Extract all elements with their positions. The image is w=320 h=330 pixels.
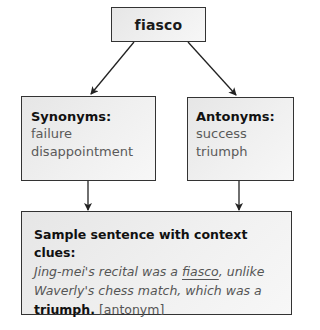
vocab-word-box: fiasco [111,7,206,42]
sentence-part: , unlike [219,264,265,279]
arrow-to-antonyms [188,42,236,95]
antonyms-box: Antonyms: success triumph [187,97,294,181]
sample-sentence-line-2: Waverly's chess match, which was a [34,281,291,300]
sample-sentence-box: Sample sentence with context clues: Jing… [21,211,292,315]
context-clue-word: triumph. [34,302,95,317]
synonyms-box: Synonyms: failure disappointment [21,96,156,181]
antonym-item: success [196,125,293,143]
target-word: fiasco [182,264,219,279]
synonym-item: failure [31,125,155,143]
sample-heading: Sample sentence with context clues: [34,226,291,262]
antonym-item: triumph [196,143,293,161]
vocab-word: fiasco [135,17,183,33]
sentence-part: Waverly's chess match, which was a [34,283,262,298]
sentence-part: Jing-mei's recital was a [34,264,182,279]
synonyms-heading: Synonyms: [31,108,155,125]
arrow-to-synonyms [91,42,134,94]
sample-sentence-line-1: Jing-mei's recital was a fiasco, unlike [34,262,291,281]
clue-type-tag: [antonym] [95,302,164,317]
sample-sentence-line-3: triumph. [antonym] [34,300,291,319]
antonyms-heading: Antonyms: [196,108,293,125]
synonym-item: disappointment [31,143,155,161]
